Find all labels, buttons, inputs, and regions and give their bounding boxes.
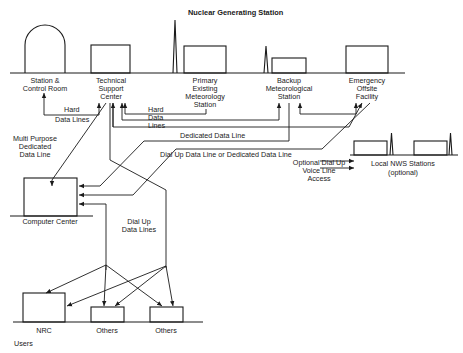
svg-text:Others: Others: [155, 326, 177, 335]
label-optional-voice: Optional Dial Up Voice Line Access: [293, 158, 345, 183]
nrc-building-icon: [23, 293, 65, 322]
dial-up-data-line: [79, 204, 106, 270]
primary-met-building-icon: [184, 46, 226, 73]
label-station-control-room: Station & Control Room: [23, 76, 67, 93]
label-dial-up-data-lines: Dial Up Data Lines: [122, 217, 157, 234]
svg-text:Data Line: Data Line: [20, 150, 51, 159]
svg-text:Station: Station: [194, 100, 216, 109]
svg-text:Data Lines: Data Lines: [55, 115, 90, 124]
nws-building-1-icon: [354, 141, 387, 155]
svg-text:Local NWS Stations: Local NWS Stations: [371, 159, 435, 168]
label-computer-center: Computer Center: [22, 217, 78, 226]
label-primary-meteorology-station: Primary Existing Meteorology Station: [185, 76, 225, 109]
users-labels: NRC Others Others: [36, 326, 177, 335]
label-multi-purpose-dedicated-data-line: Multi Purpose Dedicated Data Line: [13, 134, 57, 159]
control-room-dome-icon: [25, 25, 65, 73]
label-emergency-offsite-facility: Emergency Offsite Facility: [349, 76, 386, 101]
svg-text:Access: Access: [307, 174, 331, 183]
diagram-title: Nuclear Generating Station: [188, 8, 284, 17]
nws-tower-2-icon: [449, 133, 452, 155]
svg-text:NRC: NRC: [36, 326, 52, 335]
label-dial-up-or-dedicated: Dial Up Data Line or Dedicated Data Line: [160, 150, 292, 159]
label-dedicated-data-line: Dedicated Data Line: [180, 131, 245, 140]
svg-text:Lines: Lines: [148, 121, 166, 130]
eof-building-icon: [346, 46, 388, 73]
label-technical-support-center: Technical Support Center: [96, 76, 126, 101]
label-backup-meteorological-station: Backup Meteorological Station: [266, 76, 313, 101]
nws-tower-1-icon: [390, 133, 393, 155]
svg-text:Control Room: Control Room: [23, 84, 67, 93]
label-hard-data-lines-left: Hard Data Lines: [55, 105, 90, 124]
dedicated-data-line: [79, 103, 289, 186]
computer-center-building-icon: [24, 178, 77, 216]
others-building-2-icon: [150, 307, 183, 322]
svg-text:Data Lines: Data Lines: [122, 225, 157, 234]
tsc-building-icon: [91, 45, 130, 73]
backup-met-building-icon: [272, 58, 306, 73]
svg-text:(optional): (optional): [388, 168, 418, 177]
backup-tower-icon: [264, 46, 268, 73]
svg-text:Others: Others: [96, 326, 118, 335]
nuclear-station-data-network-diagram: Nuclear Generating Station Station & Con…: [0, 0, 463, 353]
label-local-nws-stations: Local NWS Stations (optional): [371, 159, 435, 177]
svg-text:Facility: Facility: [356, 92, 379, 101]
nws-building-2-icon: [414, 141, 447, 155]
met-tower-icon: [173, 20, 177, 73]
svg-text:Hard: Hard: [64, 105, 80, 114]
label-hard-data-lines-right: Hard Data Lines: [148, 105, 166, 130]
label-users-heading: Users: [14, 339, 33, 348]
svg-text:Center: Center: [100, 92, 122, 101]
others-building-1-icon: [91, 307, 124, 322]
svg-text:Station: Station: [278, 92, 300, 101]
